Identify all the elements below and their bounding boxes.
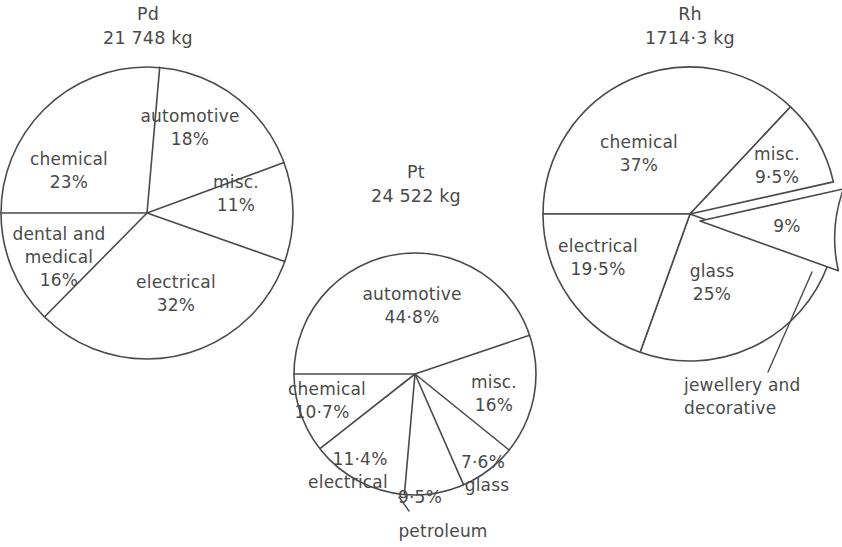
pt-slice-label-misc: misc. 16% (471, 372, 517, 415)
pd-slice-label-automotive: automotive 18% (140, 106, 239, 149)
pd-slice-label-misc: misc. 11% (213, 172, 259, 215)
pd-slice-label-dental-medical: dental and medical 16% (12, 224, 105, 290)
pt-spoke-glass-petroleum (415, 374, 464, 485)
pd-dental-name-line2: medical (25, 247, 93, 267)
pt-pie-chart: Pt 24 522 kg automotive 44·8% misc. 16% (288, 162, 536, 541)
pt-misc-value: 16% (475, 395, 513, 415)
pd-spoke-misc-electrical (147, 213, 285, 262)
pie-chart-figure: Pd 21 748 kg automotive 18% misc. 11% (0, 0, 842, 547)
pt-slice-label-petroleum: 9·5% petroleum (398, 487, 488, 541)
pd-electrical-name: electrical (136, 272, 216, 292)
rh-misc-value: 9·5% (755, 167, 799, 187)
pt-glass-name: glass (465, 475, 510, 495)
pd-subtitle: 21 748 kg (103, 28, 193, 48)
rh-glass-name: glass (690, 261, 735, 281)
rh-jewellery-name-line1: jewellery and (683, 375, 801, 395)
rh-electrical-name: electrical (558, 236, 638, 256)
pt-spoke-petroleum-electrical (404, 374, 415, 495)
rh-title: Rh (678, 4, 702, 24)
pt-subtitle: 24 522 kg (371, 186, 461, 206)
rh-pie-chart: Rh 1714·3 kg chemical 37% misc. 9·5% (543, 4, 842, 418)
rh-subtitle: 1714·3 kg (645, 28, 735, 48)
rh-jewellery-name-line2: decorative (684, 398, 776, 418)
pt-chemical-name: chemical (288, 379, 366, 399)
pd-title: Pd (137, 4, 159, 24)
pd-slice-label-chemical: chemical 23% (30, 149, 108, 192)
pt-misc-name: misc. (471, 372, 517, 392)
pt-title: Pt (407, 162, 425, 182)
pd-automotive-value: 18% (171, 129, 209, 149)
pd-slice-label-electrical: electrical 32% (136, 272, 216, 315)
pd-electrical-value: 32% (157, 295, 195, 315)
pd-dental-name-line1: dental and (12, 224, 105, 244)
pt-chemical-value: 10·7% (294, 402, 349, 422)
pt-automotive-name: automotive (362, 284, 461, 304)
pt-petroleum-name: petroleum (398, 521, 487, 541)
pd-chemical-name: chemical (30, 149, 108, 169)
pt-slice-label-chemical: chemical 10·7% (288, 379, 366, 422)
pd-automotive-name: automotive (140, 106, 239, 126)
pd-misc-name: misc. (213, 172, 259, 192)
rh-jewellery-value: 9% (773, 216, 800, 236)
pt-electrical-value: 11·4% (332, 449, 387, 469)
pd-dental-value: 16% (40, 270, 78, 290)
pd-misc-value: 11% (217, 195, 255, 215)
rh-chemical-name: chemical (600, 132, 678, 152)
rh-chemical-value: 37% (620, 155, 658, 175)
pt-slice-label-automotive: automotive 44·8% (362, 284, 461, 327)
rh-misc-name: misc. (754, 144, 800, 164)
pd-pie-chart: Pd 21 748 kg automotive 18% misc. 11% (1, 4, 293, 359)
pd-spoke-automotive-start (147, 67, 160, 213)
pt-spoke-automotive-misc (415, 335, 530, 374)
pt-glass-value: 7·6% (461, 452, 505, 472)
pt-electrical-name: electrical (308, 472, 388, 492)
rh-electrical-value: 19·5% (570, 259, 625, 279)
pt-slice-label-electrical: 11·4% electrical (308, 449, 388, 492)
rh-glass-value: 25% (693, 284, 731, 304)
pt-automotive-value: 44·8% (384, 307, 439, 327)
pd-chemical-value: 23% (50, 172, 88, 192)
